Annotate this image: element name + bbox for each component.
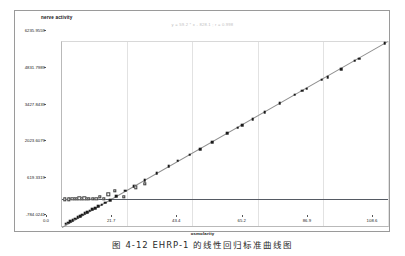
x-axis-tick-label: 108.6 [367, 218, 378, 223]
data-point [188, 154, 191, 157]
data-point [155, 172, 158, 175]
plot-area [61, 41, 389, 227]
chart-frame [14, 10, 390, 232]
data-point [124, 189, 127, 192]
x-axis-tick-label: 86.9 [303, 218, 311, 223]
y-axis-tick-mark [44, 177, 46, 178]
x-axis-tick-mark [46, 215, 47, 217]
data-point [251, 118, 254, 121]
data-point [293, 93, 296, 96]
y-axis-tick-mark [44, 104, 46, 105]
data-point [340, 68, 343, 71]
data-point [263, 111, 266, 114]
data-point [104, 202, 107, 205]
y-axis-tick-mark [44, 140, 46, 141]
data-point [98, 195, 101, 198]
y-axis-title: nerve activity [41, 15, 72, 20]
data-point [305, 87, 308, 90]
x-axis-tick-mark [372, 215, 373, 217]
figure-caption: 图 4-12 EHRP-1 的线性回归标准曲线图 [0, 238, 405, 250]
x-axis-tick-label: 65.2 [238, 218, 246, 223]
data-point [115, 195, 118, 198]
equation-annotation: y = 59.2 * x - 828.1 ; r = 0.998 [0, 22, 405, 27]
y-axis-tick-mark [44, 30, 46, 31]
data-point [102, 197, 105, 200]
x-axis-tick-mark [307, 215, 308, 217]
data-point [109, 199, 112, 202]
data-point [211, 141, 214, 144]
x-axis-tick-mark [242, 215, 243, 217]
data-point [122, 195, 125, 198]
data-point [236, 127, 239, 130]
x-axis-tick-mark [111, 215, 112, 217]
data-point [241, 124, 244, 127]
data-point [97, 205, 100, 208]
data-point [100, 203, 103, 206]
y-axis-tick-label: 619.3319 [27, 175, 45, 180]
data-point [167, 165, 170, 168]
gridline-vertical [388, 42, 389, 226]
data-point [278, 102, 281, 105]
data-point [176, 160, 179, 163]
y-axis-tick-label: 2023.6079 [25, 138, 45, 143]
y-axis-tick-label: -784.0241 [26, 212, 45, 217]
y-axis-tick-label: 6235.9559 [25, 28, 45, 33]
data-point [301, 89, 304, 92]
y-axis-tick-labels: 6235.95594831.79893427.84392023.6079619.… [14, 0, 45, 222]
x-axis-tick-label: 43.4 [172, 218, 180, 223]
data-point [353, 59, 356, 62]
data-point [134, 186, 137, 189]
x-axis-title: osmolarity [0, 231, 405, 236]
y-axis-tick-label: 4831.7989 [25, 64, 45, 69]
data-point [143, 182, 146, 185]
y-axis-tick-mark [44, 67, 46, 68]
data-point [199, 148, 202, 151]
x-axis-tick-mark [176, 215, 177, 217]
data-point [107, 192, 110, 195]
x-axis-tick-labels: 0.021.743.465.286.9108.6 [46, 216, 374, 230]
data-point [320, 79, 323, 82]
y-axis-tick-label: 3427.8439 [25, 101, 45, 106]
x-axis-tick-label: 0.0 [43, 218, 49, 223]
x-axis-tick-label: 21.7 [107, 218, 115, 223]
data-point [326, 76, 329, 79]
data-point [226, 132, 229, 135]
data-point [358, 57, 361, 60]
screenshot-root: nerve activity y = 59.2 * x - 828.1 ; r … [0, 0, 405, 256]
data-point [383, 42, 386, 45]
data-point [113, 189, 116, 192]
